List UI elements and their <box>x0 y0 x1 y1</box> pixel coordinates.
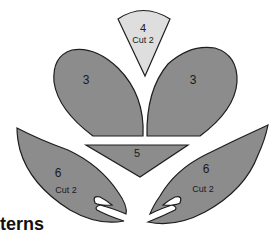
piece-4-note: Cut 2 <box>132 35 154 45</box>
piece-3-left-number: 3 <box>83 73 90 87</box>
piece-3-right-number: 3 <box>190 73 197 87</box>
piece-3-left-shape <box>54 49 143 136</box>
piece-6-left-number: 6 <box>55 166 62 180</box>
piece-5-number: 5 <box>134 147 140 159</box>
caption-title: terns <box>0 214 44 235</box>
piece-3-right-shape <box>147 47 237 136</box>
piece-6-right-note: Cut 2 <box>192 184 214 194</box>
piece-4-number: 4 <box>140 22 146 34</box>
piece-6-right-number: 6 <box>203 162 210 176</box>
piece-6-left-shape <box>17 128 126 222</box>
piece-6-left-note: Cut 2 <box>55 185 77 195</box>
pattern-diagram: 4 Cut 2 3 3 5 6 Cut 2 6 Cut 2 <box>0 0 275 244</box>
